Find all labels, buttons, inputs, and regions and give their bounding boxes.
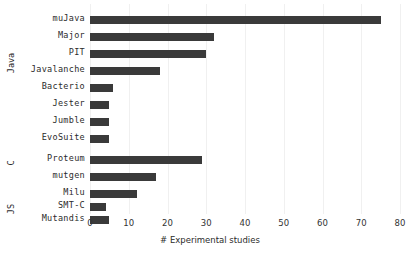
bar — [90, 84, 113, 92]
bar-category-label: Jumble — [52, 115, 85, 125]
bar — [90, 216, 109, 224]
bar — [90, 33, 214, 41]
group-label-java-text: Java — [6, 53, 16, 73]
x-tick-label: 20 — [162, 218, 173, 228]
bar — [90, 67, 160, 75]
bar-category-label: mutgen — [52, 170, 85, 180]
bar-category-label: Jester — [52, 98, 85, 108]
bar-category-label: Bacterio — [42, 81, 85, 91]
bar-category-label: Mutandis — [42, 213, 85, 223]
x-tick-label: 10 — [123, 218, 134, 228]
bar-category-label: PIT — [69, 47, 85, 57]
bar — [90, 173, 156, 181]
group-label-js-text: JS — [6, 204, 16, 214]
group-label-js: JS — [0, 204, 22, 214]
bar-category-label: Proteum — [47, 153, 85, 163]
x-axis-title: # Experimental studies — [0, 235, 420, 245]
bar — [90, 101, 109, 109]
bar — [90, 16, 381, 24]
bar-category-label: Major — [58, 30, 85, 40]
group-label-c: C — [0, 158, 22, 168]
group-label-java: Java — [0, 58, 22, 68]
x-tick-label: 0 — [87, 218, 92, 228]
x-tick-label: 50 — [278, 218, 289, 228]
bar — [90, 50, 206, 58]
x-tick-label: 70 — [356, 218, 367, 228]
bar — [90, 118, 109, 126]
bar-category-label: EvoSuite — [42, 132, 85, 142]
x-axis-line — [90, 214, 400, 215]
group-label-c-text: C — [6, 160, 16, 165]
bar-category-label: muJava — [52, 13, 85, 23]
bar-category-label: Milu — [63, 187, 85, 197]
gridline — [400, 4, 401, 214]
x-tick-label: 30 — [201, 218, 212, 228]
x-tick-label: 80 — [395, 218, 406, 228]
bar-category-label: SMT-C — [58, 200, 85, 210]
bar — [90, 135, 109, 143]
bar-chart-figure: muJavaMajorPITJavalancheBacterioJesterJu… — [0, 0, 420, 259]
x-tick-label: 40 — [240, 218, 251, 228]
plot-area: muJavaMajorPITJavalancheBacterioJesterJu… — [90, 4, 400, 214]
x-tick-label: 60 — [317, 218, 328, 228]
bar-row: EvoSuite — [90, 129, 400, 149]
bar — [90, 156, 202, 164]
bar-category-label: Javalanche — [31, 64, 85, 74]
